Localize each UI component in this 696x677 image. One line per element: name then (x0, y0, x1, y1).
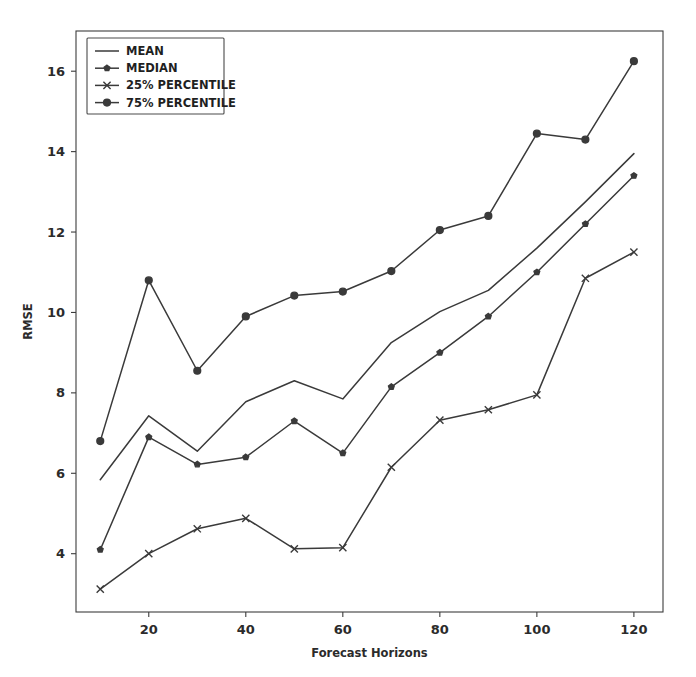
x-tick-label: 40 (237, 622, 255, 637)
data-point-marker (388, 268, 395, 275)
legend-item-label: MEDIAN (126, 61, 178, 75)
data-point-marker (145, 277, 152, 284)
data-point-marker (243, 454, 249, 459)
y-axis-title: RMSE (21, 303, 35, 340)
data-point-marker (631, 173, 637, 178)
y-tick-label: 12 (47, 225, 65, 240)
data-point-marker (97, 585, 104, 592)
data-point-marker (388, 464, 395, 471)
data-point-marker (388, 384, 394, 389)
y-tick-label: 6 (56, 466, 65, 481)
data-point-marker (145, 550, 152, 557)
x-tick-label: 100 (523, 622, 550, 637)
data-point-marker (437, 350, 443, 355)
data-point-marker (97, 547, 103, 552)
data-point-marker (340, 450, 346, 455)
legend-sample-marker (104, 65, 110, 70)
data-point-marker (534, 269, 540, 274)
series-mean (100, 154, 634, 480)
data-point-marker (630, 249, 637, 256)
data-point-marker (146, 434, 152, 439)
legend-item-label: MEAN (126, 44, 164, 58)
x-tick-label: 80 (431, 622, 449, 637)
y-tick-label: 14 (47, 144, 65, 159)
x-axis-title: Forecast Horizons (311, 646, 428, 660)
chart-figure: 4681012141620406080100120Forecast Horizo… (0, 0, 696, 677)
data-point-marker (582, 275, 589, 282)
data-point-marker (97, 438, 104, 445)
data-point-marker (242, 313, 249, 320)
data-point-marker (486, 313, 492, 318)
series-polyline (100, 61, 634, 441)
data-point-marker (194, 461, 200, 466)
x-tick-label: 120 (620, 622, 647, 637)
data-point-marker (339, 288, 346, 295)
data-point-marker (291, 292, 298, 299)
data-point-marker (583, 221, 589, 226)
x-tick-label: 60 (334, 622, 352, 637)
x-tick-label: 20 (140, 622, 158, 637)
legend-sample-marker (104, 99, 111, 106)
data-point-marker (630, 58, 637, 65)
series-75-percentile (97, 58, 637, 445)
data-point-marker (582, 136, 589, 143)
data-point-marker (194, 367, 201, 374)
data-point-marker (485, 213, 492, 220)
y-tick-label: 4 (56, 546, 65, 561)
y-tick-label: 8 (56, 385, 65, 400)
rmse-line-chart: 4681012141620406080100120Forecast Horizo… (0, 0, 696, 677)
data-point-marker (436, 227, 443, 234)
data-point-marker (291, 418, 297, 423)
plot-frame (76, 31, 663, 612)
data-point-marker (533, 130, 540, 137)
legend-item-label: 75% PERCENTILE (126, 96, 236, 110)
series-polyline (100, 154, 634, 480)
legend: MEANMEDIAN25% PERCENTILE75% PERCENTILE (87, 38, 236, 114)
y-tick-label: 10 (47, 305, 65, 320)
y-tick-label: 16 (47, 64, 65, 79)
legend-item-label: 25% PERCENTILE (126, 78, 236, 92)
